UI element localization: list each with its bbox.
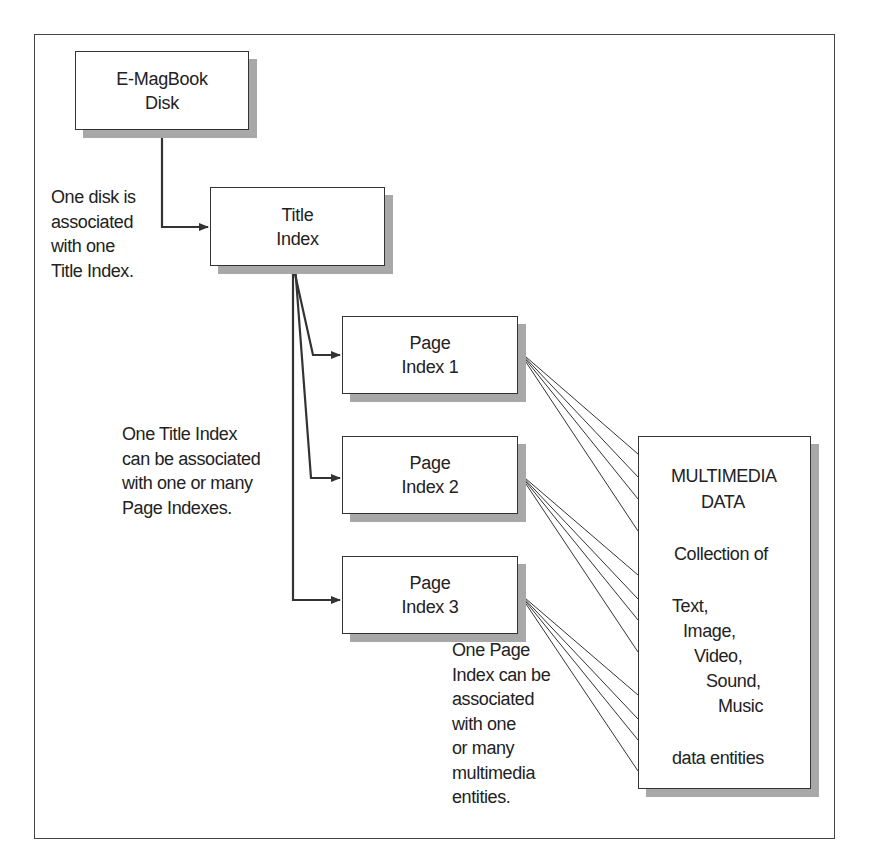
- note-line: with one: [51, 234, 136, 259]
- note-page-to-media: One Page Index can be associated with on…: [452, 638, 550, 810]
- multimedia-data-box: MULTIMEDIA DATA Collection of Text, Imag…: [638, 436, 811, 789]
- title-index-box: Title Index: [210, 187, 385, 266]
- note-line: One Page: [452, 638, 550, 663]
- note-line: entities.: [452, 785, 550, 810]
- note-line: associated: [51, 210, 136, 235]
- page-index-3-line2: Index 3: [402, 595, 459, 619]
- emagbook-disk-box: E-MagBook Disk: [75, 51, 249, 130]
- note-title-to-pages: One Title Index can be associated with o…: [122, 422, 260, 520]
- multimedia-title-line1: MULTIMEDIA: [671, 464, 777, 489]
- note-line: can be associated: [122, 447, 260, 472]
- multimedia-title-line2: DATA: [701, 490, 745, 515]
- note-line: Title Index.: [51, 259, 136, 284]
- note-line: One disk is: [51, 185, 136, 210]
- multimedia-footer: data entities: [672, 746, 764, 771]
- page-index-1-line2: Index 1: [402, 355, 459, 379]
- page-index-2-line1: Page: [410, 451, 451, 475]
- page-index-3-line1: Page: [410, 571, 451, 595]
- title-to-pages-arrows: [293, 265, 340, 600]
- title-index-line2: Index: [276, 227, 319, 251]
- page2-to-media-lines: [518, 472, 638, 652]
- entity-image: Image,: [683, 619, 736, 644]
- entity-text: Text,: [672, 594, 708, 619]
- entity-sound: Sound,: [706, 669, 761, 694]
- note-disk-to-title: One disk is associated with one Title In…: [51, 185, 136, 283]
- note-line: associated: [452, 687, 550, 712]
- disk-label-line2: Disk: [145, 91, 179, 115]
- page-index-2-line2: Index 2: [402, 475, 459, 499]
- note-line: multimedia: [452, 761, 550, 786]
- note-line: or many: [452, 736, 550, 761]
- page-index-1-line1: Page: [410, 331, 451, 355]
- entity-music: Music: [718, 694, 763, 719]
- page-index-1-box: Page Index 1: [342, 316, 518, 394]
- note-line: with one or many: [122, 471, 260, 496]
- page-index-2-box: Page Index 2: [342, 436, 518, 514]
- entity-video: Video,: [694, 644, 742, 669]
- note-line: Page Indexes.: [122, 496, 260, 521]
- page1-to-media-lines: [518, 350, 638, 531]
- note-line: One Title Index: [122, 422, 260, 447]
- multimedia-subtitle: Collection of: [674, 542, 768, 567]
- disk-label-line1: E-MagBook: [116, 67, 207, 91]
- disk-to-title-arrow: [162, 129, 208, 227]
- title-index-line1: Title: [282, 203, 314, 227]
- note-line: with one: [452, 712, 550, 737]
- page-index-3-box: Page Index 3: [342, 556, 518, 634]
- note-line: Index can be: [452, 663, 550, 688]
